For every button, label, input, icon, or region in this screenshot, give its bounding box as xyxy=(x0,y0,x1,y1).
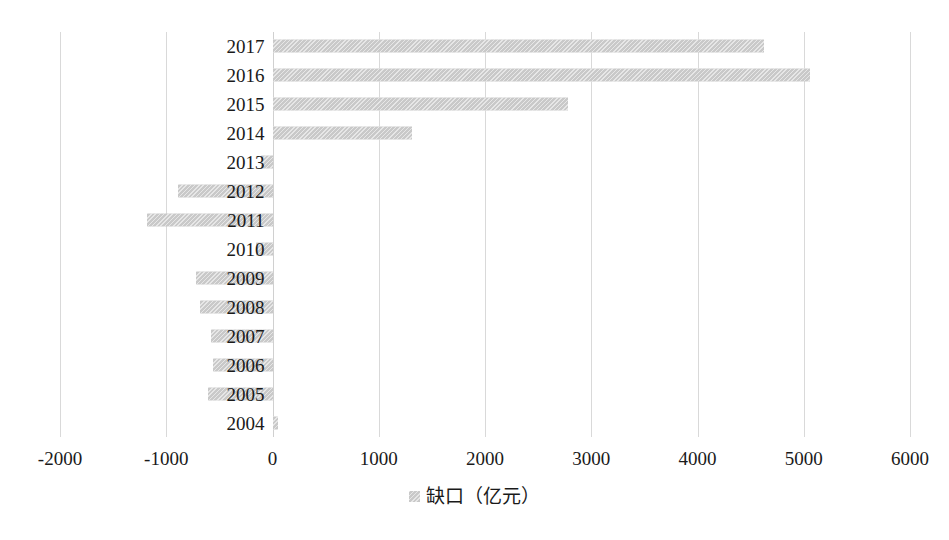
y-axis-category-label: 2017 xyxy=(227,37,265,56)
y-axis-category-label: 2006 xyxy=(227,355,265,374)
x-axis-tick-label: 0 xyxy=(268,449,278,468)
y-axis-category-label: 2011 xyxy=(227,211,264,230)
x-axis-tick-label: 2000 xyxy=(466,449,504,468)
bar xyxy=(273,416,278,429)
bar-chart: 2004200520062007200820092010201120122013… xyxy=(0,0,949,540)
bar-row: 2012 xyxy=(60,177,910,206)
bar xyxy=(273,69,811,82)
x-axis-tick-label: 6000 xyxy=(891,449,929,468)
y-axis-category-label: 2016 xyxy=(227,66,265,85)
gridline-6000 xyxy=(910,32,911,437)
bar-row: 2007 xyxy=(60,321,910,350)
bar xyxy=(273,40,765,53)
y-axis-category-label: 2013 xyxy=(227,153,265,172)
x-axis-tick-label: -2000 xyxy=(38,449,82,468)
bar-row: 2017 xyxy=(60,32,910,61)
bar-row: 2006 xyxy=(60,350,910,379)
bar xyxy=(273,127,412,140)
chart-legend: 缺口（亿元） xyxy=(0,487,949,506)
y-axis-category-label: 2014 xyxy=(227,124,265,143)
legend-swatch-icon xyxy=(409,491,420,502)
y-axis-category-label: 2012 xyxy=(227,182,265,201)
y-axis-category-label: 2008 xyxy=(227,297,265,316)
bar-row: 2011 xyxy=(60,206,910,235)
x-axis-tick-label: 3000 xyxy=(572,449,610,468)
bar-row: 2015 xyxy=(60,90,910,119)
y-axis-category-label: 2005 xyxy=(227,384,265,403)
bar-row: 2009 xyxy=(60,263,910,292)
y-axis-category-label: 2010 xyxy=(227,239,265,258)
bar-row: 2004 xyxy=(60,408,910,437)
x-axis-tick-label: 1000 xyxy=(360,449,398,468)
bar-row: 2013 xyxy=(60,148,910,177)
plot-area: 2004200520062007200820092010201120122013… xyxy=(60,32,910,437)
y-axis-category-label: 2009 xyxy=(227,268,265,287)
legend-label: 缺口（亿元） xyxy=(426,487,540,506)
bar-row: 2005 xyxy=(60,379,910,408)
y-axis-category-label: 2004 xyxy=(227,413,265,432)
bar-row: 2014 xyxy=(60,119,910,148)
bar-row: 2010 xyxy=(60,235,910,264)
bar-row: 2008 xyxy=(60,292,910,321)
x-axis-tick-label: 5000 xyxy=(785,449,823,468)
bar-row: 2016 xyxy=(60,61,910,90)
bar xyxy=(273,98,568,111)
x-axis-tick-label: -1000 xyxy=(144,449,188,468)
x-axis-tick-labels: -2000-10000100020003000400050006000 xyxy=(60,449,910,477)
y-axis-category-label: 2015 xyxy=(227,95,265,114)
x-axis-tick-label: 4000 xyxy=(679,449,717,468)
y-axis-category-label: 2007 xyxy=(227,326,265,345)
